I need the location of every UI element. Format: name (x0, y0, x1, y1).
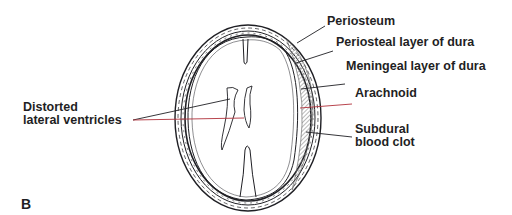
falx-posterior (240, 146, 256, 197)
falx-anterior (243, 39, 248, 64)
leader-ventricle-lower (133, 118, 244, 120)
label-meningeal-dura: Meningeal layer of dura (346, 60, 486, 73)
label-subdural-line2: blood clot (355, 136, 415, 149)
panel-letter: B (21, 196, 31, 212)
leader-lines (133, 26, 352, 137)
leader-subdural-clot (306, 132, 352, 137)
subdural-hematoma-diagram: Periosteum Periosteal layer of dura Meni… (0, 0, 512, 215)
label-ventricles-line2: lateral ventricles (23, 114, 122, 127)
label-periosteum: Periosteum (327, 15, 395, 28)
leader-periosteum (297, 26, 325, 43)
leader-periosteal-dura (296, 51, 333, 63)
skull-bone (175, 25, 321, 211)
label-arachnoid: Arachnoid (355, 87, 417, 100)
label-periosteal-dura: Periosteal layer of dura (336, 36, 474, 49)
